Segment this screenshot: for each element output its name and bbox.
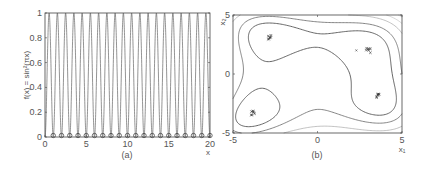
minimum-cluster [250, 110, 256, 117]
y-tick-label: 0.8 [29, 33, 42, 43]
y-tick-label: 0.2 [29, 107, 42, 117]
panel-a-axes-box [45, 13, 210, 137]
x-tick-label: 15 [164, 139, 174, 149]
x-tick-label: 5 [399, 135, 404, 145]
x-tick-label: 0 [42, 139, 47, 149]
minimum-cluster [267, 34, 272, 40]
panel-b-y-label: x₂ [218, 18, 227, 25]
panel-b-x-label: x₁ [399, 145, 406, 154]
y-tick-label: 0.6 [29, 58, 42, 68]
panel-a-y-label: f(x) = sin²(πx) [22, 50, 31, 99]
y-tick-label: 0.4 [29, 82, 42, 92]
panel-b-y-ticks: -505 [222, 10, 402, 138]
panel-a: 00.20.40.60.81 05101520 f(x) = sin²(πx) … [22, 8, 215, 160]
x-tick-label: 5 [84, 139, 89, 149]
y-tick-label: 0 [37, 132, 42, 142]
x-tick-label: -5 [229, 135, 237, 145]
y-tick-label: 1 [37, 8, 42, 18]
sin-squared-curve [45, 13, 210, 137]
minima-clusters [250, 34, 380, 116]
minimum-cluster [365, 47, 372, 54]
x-tick-label: 0 [315, 135, 320, 145]
contour-lines [233, 15, 402, 133]
panel-b-caption: (b) [312, 150, 323, 160]
figure: 00.20.40.60.81 05101520 f(x) = sin²(πx) … [0, 0, 424, 169]
panel-b-x-ticks: -505 [229, 15, 405, 145]
panel-a-caption: (a) [122, 150, 133, 160]
x-tick-label: 10 [122, 139, 132, 149]
minimum-cluster [375, 93, 380, 99]
panel-b: -505 -505 x₂ x₁ (b) [218, 10, 406, 160]
y-tick-label: 0 [225, 69, 230, 79]
panel-a-x-label: x [206, 148, 210, 157]
